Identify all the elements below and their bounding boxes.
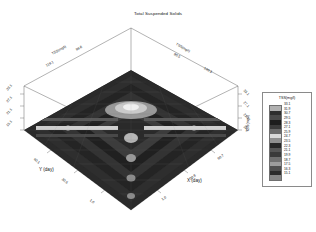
color-legend: TSS(mg/l) 33.131.930.729.528.327.125.924… bbox=[262, 92, 312, 187]
y-axis-title: Y (day) bbox=[39, 167, 54, 172]
chart-title: Total Suspended Solids bbox=[0, 11, 316, 16]
surface-plot: 33.1 27.1 21.1 15.1 TSS(mg/l) 33.1 27.1 … bbox=[6, 18, 256, 218]
x-axis-title: X (day) bbox=[187, 178, 202, 183]
z-axis-title-right: TSS(mg/l) bbox=[246, 115, 250, 132]
legend-colorbar bbox=[269, 105, 282, 181]
legend-swatch-15 bbox=[270, 175, 281, 180]
plot-svg bbox=[6, 18, 256, 218]
legend-values: 33.131.930.729.528.327.125.924.723.522.3… bbox=[284, 102, 310, 176]
legend-value-15: 15.1 bbox=[284, 171, 310, 176]
surface-body bbox=[24, 70, 238, 210]
legend-title: TSS(mg/l) bbox=[263, 96, 311, 100]
figure-root: Total Suspended Solids bbox=[0, 0, 316, 232]
